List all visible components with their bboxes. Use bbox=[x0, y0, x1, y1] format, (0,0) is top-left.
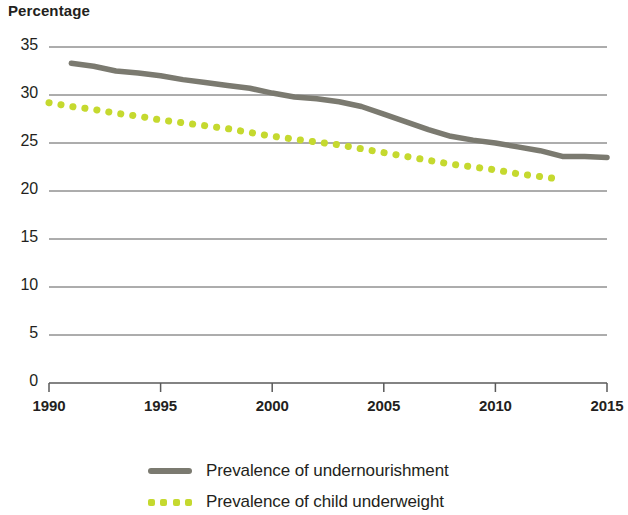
y-tick-label: 20 bbox=[4, 180, 38, 198]
x-tick-label: 2005 bbox=[354, 397, 414, 414]
legend-item-undernourishment: Prevalence of undernourishment bbox=[148, 455, 618, 486]
x-tick-label: 2010 bbox=[465, 397, 525, 414]
legend-dot bbox=[160, 499, 167, 506]
y-tick-label: 0 bbox=[4, 372, 38, 390]
data-series-group bbox=[49, 63, 607, 179]
x-tick-label: 1995 bbox=[131, 397, 191, 414]
y-tick-label: 10 bbox=[4, 276, 38, 294]
legend-label-undernourishment: Prevalence of undernourishment bbox=[206, 461, 449, 481]
y-tick-label: 25 bbox=[4, 132, 38, 150]
y-tick-label: 5 bbox=[4, 324, 38, 342]
x-tick-label: 2000 bbox=[242, 397, 302, 414]
legend-dotted-line-icon bbox=[148, 495, 192, 509]
x-axis-ticks-group bbox=[49, 383, 607, 392]
legend-label-child-underweight: Prevalence of child underweight bbox=[206, 492, 444, 512]
legend-dot bbox=[185, 499, 192, 506]
y-tick-label: 15 bbox=[4, 228, 38, 246]
x-tick-label: 2015 bbox=[577, 397, 628, 414]
chart-legend: Prevalence of undernourishment Prevalenc… bbox=[148, 455, 618, 515]
legend-dot bbox=[173, 499, 180, 506]
y-tick-label: 35 bbox=[4, 36, 38, 54]
x-tick-label: 1990 bbox=[19, 397, 79, 414]
gridlines-group bbox=[49, 47, 607, 383]
legend-item-child-underweight: Prevalence of child underweight bbox=[148, 486, 618, 515]
legend-solid-line-icon bbox=[148, 464, 192, 478]
legend-dot bbox=[148, 499, 155, 506]
y-tick-label: 30 bbox=[4, 84, 38, 102]
